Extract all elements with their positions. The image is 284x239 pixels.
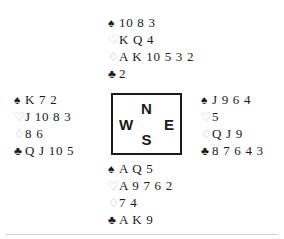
compass-label-south: S	[141, 132, 151, 147]
compass-box: N W E S	[111, 93, 182, 155]
hand-east: ♠ J 9 6 4 ♡ 5 ♢ Q J 9 ♣ 8 7 6 4 3	[201, 91, 264, 159]
hand-north-hearts-row: ♡ K Q 4	[108, 31, 194, 48]
compass-label-north: N	[141, 101, 152, 116]
hand-east-clubs: 8 7 6 4 3	[212, 142, 264, 159]
hand-north-clubs: 2	[119, 65, 126, 82]
hand-north-diamonds: A K 10 5 3 2	[119, 48, 194, 65]
spade-icon: ♠	[108, 161, 119, 178]
hand-north-spades: 10 8 3	[119, 14, 156, 31]
hand-north-spades-row: ♠ 10 8 3	[108, 14, 194, 31]
hand-south-hearts-row: ♡ A 9 7 6 2	[108, 177, 173, 194]
diamond-icon: ♢	[108, 195, 119, 212]
hand-south-clubs-row: ♣ A K 9	[108, 211, 173, 228]
hand-west-clubs-row: ♣ Q J 10 5	[14, 142, 74, 159]
hand-south-hearts: A 9 7 6 2	[119, 177, 173, 194]
hand-west-hearts: J 10 8 3	[25, 108, 71, 125]
hand-west-spades-row: ♠ K 7 2	[14, 91, 74, 108]
hand-east-clubs-row: ♣ 8 7 6 4 3	[201, 142, 264, 159]
bottom-divider	[6, 234, 278, 235]
diamond-icon: ♢	[201, 126, 212, 143]
hand-south: ♠ A Q 5 ♡ A 9 7 6 2 ♢ 7 4 ♣ A K 9	[108, 160, 173, 228]
hand-south-diamonds: 7 4	[119, 194, 137, 211]
spade-icon: ♠	[14, 92, 25, 109]
spade-icon: ♠	[108, 15, 119, 32]
hand-east-diamonds: Q J 9	[212, 125, 243, 142]
compass-label-west: W	[119, 117, 133, 132]
hand-west-clubs: Q J 10 5	[25, 142, 74, 159]
club-icon: ♣	[108, 66, 119, 83]
hand-north-hearts: K Q 4	[119, 31, 154, 48]
hand-east-diamonds-row: ♢ Q J 9	[201, 125, 264, 142]
hand-east-spades: J 9 6 4	[212, 91, 251, 108]
hand-west-spades: K 7 2	[25, 91, 57, 108]
hand-south-clubs: A K 9	[119, 211, 154, 228]
hand-west-diamonds-row: ♢ 8 6	[14, 125, 74, 142]
hand-south-diamonds-row: ♢ 7 4	[108, 194, 173, 211]
heart-icon: ♡	[108, 178, 119, 195]
compass-label-east: E	[164, 117, 174, 132]
hand-north: ♠ 10 8 3 ♡ K Q 4 ♢ A K 10 5 3 2 ♣ 2	[108, 14, 194, 82]
club-icon: ♣	[14, 143, 25, 160]
hand-east-hearts: 5	[212, 108, 219, 125]
heart-icon: ♡	[14, 109, 25, 126]
diamond-icon: ♢	[108, 49, 119, 66]
hand-west-diamonds: 8 6	[25, 125, 43, 142]
hand-north-diamonds-row: ♢ A K 10 5 3 2	[108, 48, 194, 65]
hand-east-hearts-row: ♡ 5	[201, 108, 264, 125]
heart-icon: ♡	[108, 32, 119, 49]
club-icon: ♣	[201, 143, 212, 160]
bridge-deal-diagram: ♠ 10 8 3 ♡ K Q 4 ♢ A K 10 5 3 2 ♣ 2 ♠ K …	[0, 0, 284, 239]
hand-west: ♠ K 7 2 ♡ J 10 8 3 ♢ 8 6 ♣ Q J 10 5	[14, 91, 74, 159]
hand-east-spades-row: ♠ J 9 6 4	[201, 91, 264, 108]
hand-west-hearts-row: ♡ J 10 8 3	[14, 108, 74, 125]
club-icon: ♣	[108, 212, 119, 229]
hand-south-spades-row: ♠ A Q 5	[108, 160, 173, 177]
diamond-icon: ♢	[14, 126, 25, 143]
hand-north-clubs-row: ♣ 2	[108, 65, 194, 82]
spade-icon: ♠	[201, 92, 212, 109]
hand-south-spades: A Q 5	[119, 160, 154, 177]
heart-icon: ♡	[201, 109, 212, 126]
